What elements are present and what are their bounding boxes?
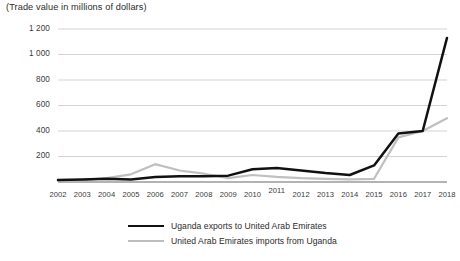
series-lines	[58, 38, 447, 181]
series-line-0	[58, 38, 447, 180]
legend-line-swatch-icon	[128, 225, 164, 227]
y-tick-label: 600	[0, 100, 50, 109]
legend-label: United Arab Emirates imports from Uganda	[171, 236, 337, 246]
y-tick-label: 1 000	[0, 49, 50, 58]
y-tick-label: 200	[0, 151, 50, 160]
y-tick-label: 1 200	[0, 24, 50, 33]
chart-legend: Uganda exports to United Arab EmiratesUn…	[128, 218, 428, 248]
legend-line-swatch-icon	[128, 240, 164, 242]
gridlines	[58, 29, 447, 157]
series-line-1	[58, 118, 447, 180]
plot-area: 2004006008001 0001 200 20022003200420052…	[0, 0, 455, 200]
legend-item[interactable]: Uganda exports to United Arab Emirates	[128, 218, 428, 233]
plot-svg	[0, 0, 455, 200]
x-tick-label: 2018	[430, 190, 460, 199]
y-tick-label: 800	[0, 75, 50, 84]
legend-item[interactable]: United Arab Emirates imports from Uganda	[128, 233, 428, 248]
legend-label: Uganda exports to United Arab Emirates	[171, 221, 327, 231]
y-tick-label: 400	[0, 126, 50, 135]
